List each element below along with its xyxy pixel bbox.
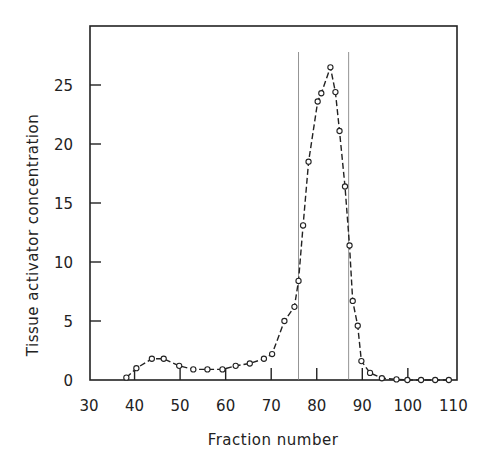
data-point-marker — [149, 356, 154, 361]
data-point-marker — [319, 91, 324, 96]
x-tick-label: 70 — [262, 397, 281, 415]
x-tick-label: 110 — [439, 397, 468, 415]
x-tick-label: 100 — [394, 397, 423, 415]
data-series — [124, 65, 452, 383]
data-point-marker — [359, 359, 364, 364]
data-point-marker — [191, 367, 196, 372]
y-tick-label: 10 — [54, 254, 73, 272]
x-axis-label: Fraction number — [208, 431, 339, 449]
data-point-marker — [337, 128, 342, 133]
series-line — [126, 67, 448, 380]
y-tick-labels: 0510152025 — [54, 77, 73, 390]
y-tick-label: 0 — [63, 372, 73, 390]
x-tick-labels: 30405060708090100110 — [79, 397, 467, 415]
axis-ticks — [90, 85, 408, 380]
data-point-marker — [347, 243, 352, 248]
y-axis-label: Tissue activator concentration — [24, 114, 42, 357]
data-point-marker — [342, 184, 347, 189]
x-tick-label: 60 — [216, 397, 235, 415]
chart: 30405060708090100110 0510152025 Fraction… — [0, 0, 491, 476]
data-point-marker — [124, 375, 129, 380]
fraction-pool-markers — [299, 52, 349, 380]
data-point-marker — [233, 363, 238, 368]
data-point-marker — [433, 377, 438, 382]
data-point-marker — [333, 89, 338, 94]
y-tick-label: 15 — [54, 195, 73, 213]
x-tick-label: 30 — [79, 397, 98, 415]
data-point-marker — [220, 367, 225, 372]
y-tick-label: 5 — [63, 313, 73, 331]
x-tick-label: 90 — [353, 397, 372, 415]
data-point-marker — [205, 367, 210, 372]
data-point-marker — [379, 376, 384, 381]
data-point-marker — [394, 377, 399, 382]
data-point-marker — [247, 361, 252, 366]
data-point-marker — [418, 377, 423, 382]
data-point-marker — [306, 159, 311, 164]
data-point-marker — [282, 318, 287, 323]
data-point-marker — [161, 356, 166, 361]
y-tick-label: 25 — [54, 77, 73, 95]
data-point-marker — [177, 363, 182, 368]
data-point-marker — [350, 298, 355, 303]
data-point-marker — [296, 278, 301, 283]
data-point-marker — [292, 304, 297, 309]
data-point-marker — [261, 356, 266, 361]
x-tick-label: 80 — [307, 397, 326, 415]
x-tick-label: 50 — [171, 397, 190, 415]
data-point-marker — [367, 370, 372, 375]
data-point-marker — [446, 377, 451, 382]
data-point-marker — [315, 99, 320, 104]
y-tick-label: 20 — [54, 136, 73, 154]
data-point-marker — [134, 366, 139, 371]
data-point-marker — [328, 65, 333, 70]
data-point-marker — [300, 223, 305, 228]
plot-frame — [90, 26, 457, 380]
data-point-marker — [405, 377, 410, 382]
data-point-marker — [355, 323, 360, 328]
x-tick-label: 40 — [125, 397, 144, 415]
plot-border — [90, 26, 457, 380]
data-point-marker — [270, 351, 275, 356]
